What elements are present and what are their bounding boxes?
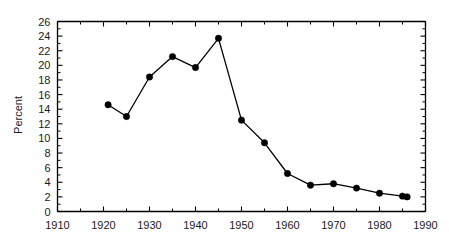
data-point-marker bbox=[215, 35, 221, 41]
x-tick-label: 1950 bbox=[229, 219, 253, 231]
y-tick-label: 24 bbox=[38, 30, 50, 42]
y-tick-label: 12 bbox=[38, 118, 50, 130]
data-point-marker bbox=[261, 140, 267, 146]
chart-background bbox=[0, 0, 449, 241]
x-axis-tick-labels: 191019201930194019501960197019801990 bbox=[45, 219, 437, 231]
y-tick-label: 18 bbox=[38, 74, 50, 86]
x-tick-label: 1990 bbox=[413, 219, 437, 231]
data-point-marker bbox=[404, 194, 410, 200]
y-axis-title: Percent bbox=[12, 96, 24, 134]
y-tick-label: 2 bbox=[44, 191, 50, 203]
x-tick-label: 1980 bbox=[367, 219, 391, 231]
chart-container: 191019201930194019501960197019801990 024… bbox=[0, 0, 449, 241]
data-point-marker bbox=[192, 64, 198, 70]
y-tick-label: 0 bbox=[44, 206, 50, 218]
data-point-marker bbox=[376, 190, 382, 196]
data-point-marker bbox=[307, 182, 313, 188]
line-chart: 191019201930194019501960197019801990 024… bbox=[0, 0, 449, 241]
y-tick-label: 16 bbox=[38, 89, 50, 101]
y-tick-label: 4 bbox=[44, 176, 50, 188]
y-tick-label: 26 bbox=[38, 16, 50, 28]
x-tick-label: 1930 bbox=[137, 219, 161, 231]
data-point-marker bbox=[105, 102, 111, 108]
x-tick-label: 1960 bbox=[275, 219, 299, 231]
y-tick-label: 14 bbox=[38, 103, 50, 115]
y-tick-label: 8 bbox=[44, 147, 50, 159]
y-tick-label: 20 bbox=[38, 59, 50, 71]
x-tick-label: 1970 bbox=[321, 219, 345, 231]
y-tick-label: 6 bbox=[44, 162, 50, 174]
x-tick-label: 1910 bbox=[45, 219, 69, 231]
data-point-marker bbox=[284, 170, 290, 176]
y-tick-label: 22 bbox=[38, 45, 50, 57]
data-point-marker bbox=[146, 74, 152, 80]
data-point-marker bbox=[353, 185, 359, 191]
x-tick-label: 1920 bbox=[91, 219, 115, 231]
y-tick-label: 10 bbox=[38, 132, 50, 144]
data-point-marker bbox=[330, 181, 336, 187]
x-tick-label: 1940 bbox=[183, 219, 207, 231]
data-point-marker bbox=[169, 53, 175, 59]
data-point-marker bbox=[238, 117, 244, 123]
data-point-marker bbox=[123, 113, 129, 119]
